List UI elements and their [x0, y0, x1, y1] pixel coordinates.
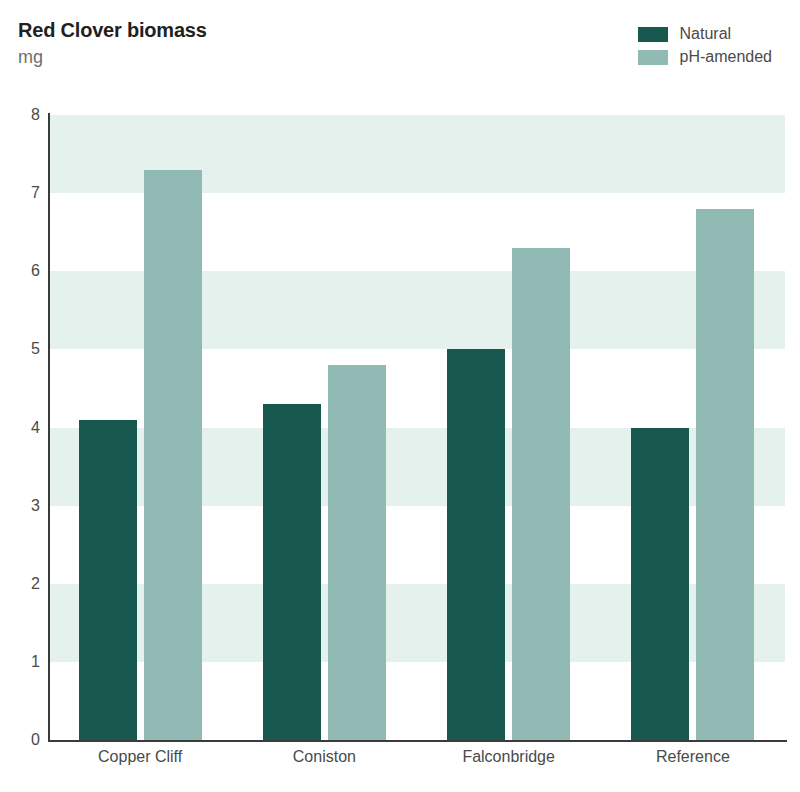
y-axis-tick-label: 5: [10, 341, 40, 357]
bar[interactable]: [631, 428, 689, 741]
x-axis-line: [48, 740, 787, 742]
bar-group: [79, 115, 202, 740]
chart-figure: Red Clover biomass mg NaturalpH-amended …: [0, 0, 800, 792]
bar-group: [447, 115, 570, 740]
y-axis-tick-label: 3: [10, 498, 40, 514]
legend-item-label: Natural: [680, 26, 732, 42]
x-axis-category-label: Copper Cliff: [48, 748, 232, 766]
page-title: Red Clover biomass: [18, 18, 518, 42]
bar[interactable]: [696, 209, 754, 740]
chart-header: Red Clover biomass mg: [18, 18, 518, 69]
x-axis-category-label: Reference: [601, 748, 785, 766]
y-axis-tick-label: 6: [10, 263, 40, 279]
chart-subtitle-units: mg: [18, 45, 518, 69]
bar[interactable]: [79, 420, 137, 740]
y-axis-tick-label: 0: [10, 732, 40, 748]
y-axis-tick-label: 4: [10, 420, 40, 436]
bar[interactable]: [512, 248, 570, 740]
chart-legend: NaturalpH-amended: [638, 26, 773, 65]
y-axis-line: [48, 113, 50, 742]
legend-item[interactable]: Natural: [638, 26, 773, 42]
bar-group: [631, 115, 754, 740]
y-axis-tick-label: 2: [10, 576, 40, 592]
bar[interactable]: [328, 365, 386, 740]
x-axis-category-label: Falconbridge: [417, 748, 601, 766]
y-axis-tick-label: 8: [10, 107, 40, 123]
bar[interactable]: [144, 170, 202, 740]
bar[interactable]: [447, 349, 505, 740]
y-axis-tick-labels: 876543210: [8, 115, 40, 740]
plot-area: [48, 115, 785, 740]
x-axis-category-label: Coniston: [232, 748, 416, 766]
bar-group: [263, 115, 386, 740]
legend-item[interactable]: pH-amended: [638, 49, 773, 65]
bar[interactable]: [263, 404, 321, 740]
y-axis-tick-label: 7: [10, 185, 40, 201]
legend-color-swatch: [638, 27, 668, 42]
legend-item-label: pH-amended: [680, 49, 773, 65]
y-axis-tick-label: 1: [10, 654, 40, 670]
legend-color-swatch: [638, 50, 668, 65]
